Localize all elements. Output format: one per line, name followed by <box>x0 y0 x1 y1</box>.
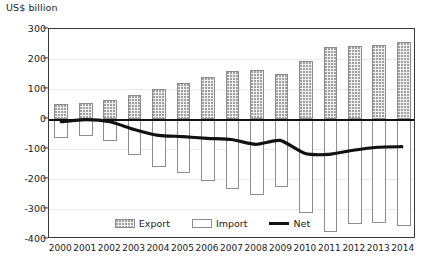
y-axis-tick-label: 200 <box>6 53 46 64</box>
net-line-series <box>49 29 414 237</box>
x-axis-tick-label: 2014 <box>391 243 414 253</box>
x-axis-tick-label: 2004 <box>147 243 170 253</box>
x-axis-tick-label: 2005 <box>171 243 194 253</box>
trade-balance-chart: US$ billion 3002001000-100-200-300-400 2… <box>0 0 425 270</box>
plot-area <box>48 28 415 238</box>
y-axis-tick-label: -400 <box>6 233 46 244</box>
y-axis-tick-label: 100 <box>6 83 46 94</box>
y-axis-title: US$ billion <box>6 2 58 13</box>
net-line-path <box>61 120 402 155</box>
x-axis-tick-label: 2001 <box>73 243 96 253</box>
x-axis-tick-label: 2007 <box>220 243 243 253</box>
x-axis-tick-label: 2000 <box>49 243 72 253</box>
x-axis-tick-label: 2013 <box>367 243 390 253</box>
x-axis-tick-label: 2010 <box>293 243 316 253</box>
y-axis-tick-label: -300 <box>6 203 46 214</box>
x-axis-tick-label: 2002 <box>98 243 121 253</box>
x-axis-tick-label: 2008 <box>245 243 268 253</box>
x-axis-tick-label: 2003 <box>122 243 145 253</box>
x-axis-tick-label: 2009 <box>269 243 292 253</box>
y-axis-tick-label: -100 <box>6 143 46 154</box>
x-axis-tick-label: 2011 <box>318 243 341 253</box>
x-axis-tick-label: 2006 <box>196 243 219 253</box>
y-axis-tick-label: 0 <box>6 113 46 124</box>
y-axis-tick-label: -200 <box>6 173 46 184</box>
x-axis-tick-label: 2012 <box>342 243 365 253</box>
y-axis-tick-label: 300 <box>6 23 46 34</box>
